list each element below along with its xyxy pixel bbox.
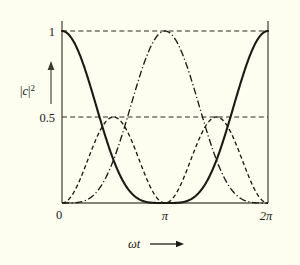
x-axis-title: ωt [128, 237, 141, 251]
x-axis-arrow-head [176, 241, 184, 247]
curve-c2-dashed [62, 117, 268, 203]
y-tick-label-1: 1 [49, 25, 55, 39]
y-axis-title-main: |c|2 [20, 83, 35, 99]
plot-frame [62, 21, 268, 203]
y-axis-title-exponent: 2 [31, 83, 36, 93]
x-tick-label-pi: π [162, 209, 169, 223]
y-axis-arrow-head [48, 61, 55, 70]
y-axis-title-group: |c|2 [20, 61, 54, 104]
x-axis-title-group: ωt [128, 237, 184, 251]
plot-svg: 1 0.5 0 π 2π |c|2 ωt [0, 0, 300, 265]
x-tick-label-2pi: 2π [260, 209, 273, 223]
gridlines [62, 31, 268, 117]
x-tick-label-0: 0 [56, 208, 62, 222]
y-tick-label-0-5: 0.5 [39, 111, 55, 125]
figure-container: 1 0.5 0 π 2π |c|2 ωt [0, 0, 300, 265]
